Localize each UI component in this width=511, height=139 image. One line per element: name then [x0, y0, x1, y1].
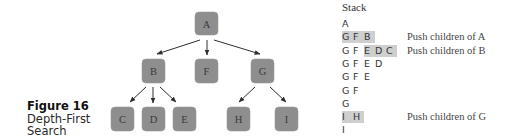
stack-row: IH — [342, 111, 364, 123]
stack-row: I — [342, 124, 353, 136]
stack-item: G — [342, 85, 353, 97]
stack-item: A — [342, 18, 353, 30]
stack-row: GFEDC — [342, 45, 397, 57]
edge-a-g — [214, 40, 260, 54]
node-h: H — [227, 107, 250, 131]
stack-item: G — [342, 71, 353, 83]
node-d: D — [142, 107, 165, 131]
svg-text:E: E — [181, 114, 187, 125]
stack-item: G — [342, 58, 353, 70]
node-e: E — [173, 107, 196, 131]
svg-text:G: G — [259, 66, 267, 77]
stack-item: E — [364, 45, 375, 57]
stack-item: D — [375, 58, 386, 70]
edge-g-h — [239, 87, 255, 102]
stack-item: F — [353, 85, 364, 97]
stack-item: I — [342, 124, 353, 136]
stack-item: F — [353, 31, 364, 43]
node-c: C — [111, 107, 134, 131]
svg-text:I: I — [285, 114, 289, 125]
stack-item: E — [364, 71, 375, 83]
stack-row: GFB — [342, 31, 375, 43]
stack-title: Stack — [342, 1, 366, 13]
svg-text:F: F — [204, 66, 210, 77]
svg-text:B: B — [150, 66, 157, 77]
stack-item: C — [386, 45, 397, 57]
node-f: F — [195, 59, 218, 83]
edge-b-e — [160, 87, 176, 102]
edge-a-b — [157, 40, 200, 54]
stack-row: GF — [342, 85, 364, 97]
stack-row: G — [342, 98, 353, 110]
stack-item: F — [353, 58, 364, 70]
node-g: G — [251, 59, 274, 83]
edge-g-i — [270, 87, 286, 102]
stack-note: Push children of A — [407, 31, 485, 43]
tree-diagram: A B F G C D E H I — [0, 0, 340, 139]
stack-item: H — [353, 111, 364, 123]
stack-item: E — [364, 58, 375, 70]
stack-item: G — [342, 31, 353, 43]
node-a: A — [195, 12, 218, 35]
edge-b-c — [130, 87, 146, 102]
svg-text:C: C — [119, 114, 126, 125]
stack-row: GFED — [342, 58, 386, 70]
svg-text:H: H — [235, 114, 243, 125]
svg-text:A: A — [203, 19, 211, 30]
node-b: B — [142, 59, 165, 83]
stack-item: F — [353, 71, 364, 83]
stack-row: A — [342, 18, 353, 30]
stack-item: B — [364, 31, 375, 43]
stack-row: GFE — [342, 71, 375, 83]
svg-text:D: D — [150, 114, 158, 125]
stack-item: G — [342, 45, 353, 57]
stack-item: G — [342, 98, 353, 110]
stack-item: I — [342, 111, 353, 123]
stack-note: Push children of B — [407, 45, 485, 57]
node-i: I — [275, 107, 298, 131]
stack-item: D — [375, 45, 386, 57]
stack-note: Push children of G — [407, 111, 486, 123]
stack-item: F — [353, 45, 364, 57]
